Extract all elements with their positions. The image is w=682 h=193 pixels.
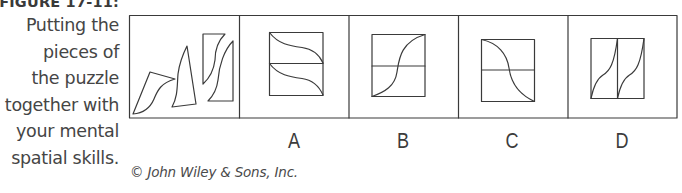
option-c-diagram: [482, 40, 535, 102]
panel-strip-border: [130, 16, 678, 119]
option-a-curve-bottom: [270, 64, 324, 96]
option-d-label: D: [606, 128, 639, 154]
puzzle-figure: A B C D: [0, 0, 682, 193]
puzzle-piece-right-a: [203, 34, 225, 84]
puzzle-piece-middle: [172, 46, 196, 107]
option-d-curve-left: [591, 39, 618, 99]
puzzle-figure-graphic: [0, 0, 682, 193]
option-c-label: C: [496, 128, 529, 154]
puzzle-pieces-icon: [133, 34, 233, 114]
puzzle-piece-left: [133, 72, 175, 114]
option-b-diagram: [372, 35, 425, 97]
option-a-curve-top: [270, 33, 324, 64]
option-a-diagram: [270, 33, 324, 96]
option-a-label: A: [278, 128, 311, 154]
option-d-curve-right: [618, 39, 645, 99]
option-b-label: B: [387, 128, 420, 154]
copyright-credit: © John Wiley & Sons, Inc.: [130, 163, 298, 181]
option-d-diagram: [591, 39, 644, 99]
